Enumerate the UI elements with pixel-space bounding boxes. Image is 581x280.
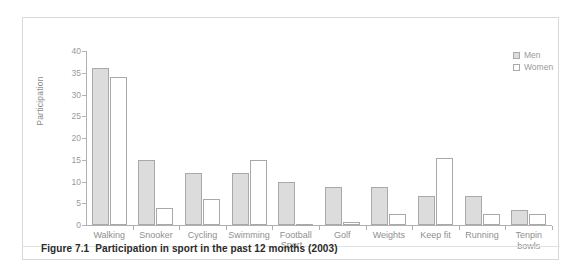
bar-women-snooker xyxy=(156,208,173,225)
bars-layer xyxy=(23,18,560,228)
bar-men-keep-fit xyxy=(418,196,435,225)
figure-container: Participation 0510152025303540 Sport Men… xyxy=(22,17,559,260)
x-axis-category-label: Golf xyxy=(319,230,366,241)
bar-women-keep-fit xyxy=(436,158,453,225)
x-axis-category-label: Keep fit xyxy=(412,230,459,241)
bar-women-cycling xyxy=(203,199,220,225)
x-axis-tick-mark xyxy=(272,226,273,230)
figure-caption-text: Participation in sport in the past 12 mo… xyxy=(95,243,337,254)
y-axis-tick-mark xyxy=(82,225,86,226)
x-axis-category-label: Walking xyxy=(86,230,133,241)
x-axis-tick-mark xyxy=(319,226,320,230)
y-axis-tick-mark xyxy=(82,95,86,96)
x-axis-tick-mark xyxy=(412,226,413,230)
x-axis-tick-mark xyxy=(552,226,553,230)
bar-women-tenpin-bowls xyxy=(529,214,546,225)
x-axis-category-label: Snooker xyxy=(133,230,180,241)
bar-women-swimming xyxy=(250,160,267,225)
y-axis-tick-mark xyxy=(82,116,86,117)
bar-men-tenpin-bowls xyxy=(511,210,528,225)
chart-plot-area: Participation 0510152025303540 Sport Men… xyxy=(23,18,560,228)
x-axis-category-label: Tenpin bowls xyxy=(505,230,552,252)
bar-men-cycling xyxy=(185,173,202,225)
figure-caption-number: Figure 7.1 xyxy=(41,243,89,254)
legend-item-men: Men xyxy=(513,49,553,61)
bar-men-weights xyxy=(371,187,388,225)
x-axis-category-label: Cycling xyxy=(179,230,226,241)
x-axis-category-label: Football xyxy=(272,230,319,241)
x-axis-category-label: Swimming xyxy=(226,230,273,241)
x-axis-tick-mark xyxy=(226,226,227,230)
y-axis-tick-mark xyxy=(82,182,86,183)
bar-men-swimming xyxy=(232,173,249,225)
y-axis-tick-mark xyxy=(82,51,86,52)
x-axis-category-label: Running xyxy=(459,230,506,241)
x-axis-tick-mark xyxy=(459,226,460,230)
bar-men-walking xyxy=(92,68,109,225)
legend-item-women: Women xyxy=(513,61,553,73)
chart-legend: Men Women xyxy=(513,49,553,73)
x-axis-category-label: Weights xyxy=(366,230,413,241)
bar-men-snooker xyxy=(138,160,155,225)
bar-men-running xyxy=(465,196,482,225)
y-axis-tick-mark xyxy=(82,73,86,74)
x-axis-tick-mark xyxy=(179,226,180,230)
x-axis-tick-mark xyxy=(366,226,367,230)
bar-men-golf xyxy=(325,187,342,225)
figure-caption: Figure 7.1Participation in sport in the … xyxy=(41,243,338,254)
bar-women-football xyxy=(296,224,313,226)
legend-label-women: Women xyxy=(524,62,553,72)
y-axis-tick-mark xyxy=(82,203,86,204)
legend-swatch-women-icon xyxy=(513,64,520,71)
bar-women-running xyxy=(483,214,500,225)
bar-women-golf xyxy=(343,222,360,225)
y-axis-tick-mark xyxy=(82,138,86,139)
bar-women-weights xyxy=(389,214,406,225)
y-axis-tick-mark xyxy=(82,160,86,161)
x-axis-tick-mark xyxy=(505,226,506,230)
legend-label-men: Men xyxy=(524,50,541,60)
bar-men-football xyxy=(278,182,295,226)
bar-women-walking xyxy=(110,77,127,225)
x-axis-tick-mark xyxy=(133,226,134,230)
legend-swatch-men-icon xyxy=(513,52,520,59)
